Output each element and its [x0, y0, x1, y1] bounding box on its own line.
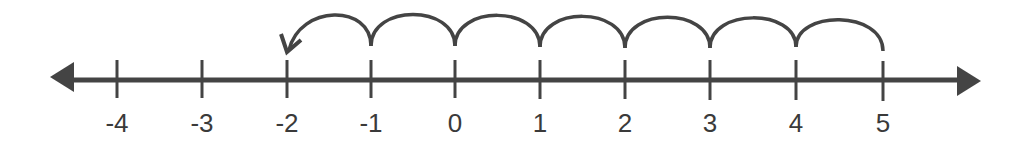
right-arrow-icon	[957, 66, 981, 96]
number-line-svg	[0, 0, 1022, 146]
tick-label: -2	[275, 108, 298, 139]
tick-label: -1	[359, 108, 382, 139]
jump-arcs	[289, 15, 883, 52]
tick-label: 1	[533, 108, 547, 139]
tick-label: -3	[190, 108, 213, 139]
tick-label: 0	[448, 108, 462, 139]
tick-label: -4	[105, 108, 128, 139]
tick-label: 4	[789, 108, 803, 139]
tick-label: 3	[703, 108, 717, 139]
left-arrow-icon	[50, 62, 74, 92]
tick-label: 2	[618, 108, 632, 139]
tick-label: 5	[876, 108, 890, 139]
